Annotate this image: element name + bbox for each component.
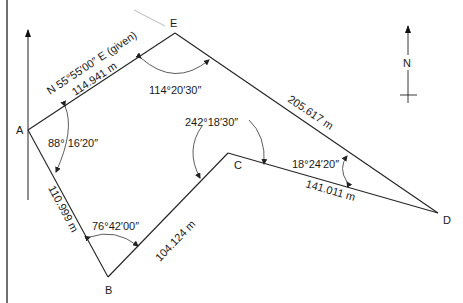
north-arrow-label: N (403, 57, 411, 69)
angle-label-B: 76°42′00″ (92, 220, 139, 232)
point-label-C: C (234, 159, 242, 171)
angle-arc-B (90, 234, 138, 246)
length-label-DC: 141.011 m (304, 177, 356, 203)
edge-CB (108, 153, 228, 277)
north-arrow: N (400, 26, 417, 103)
angle-label-E: 114°20′30″ (149, 84, 201, 96)
point-label-B: B (105, 284, 112, 296)
edge-AE (28, 33, 175, 130)
angle-arc-E (141, 58, 209, 74)
point-label-D: D (443, 214, 451, 226)
angle-label-C: 242°18′30″ (185, 116, 238, 128)
point-label-E: E (170, 17, 177, 29)
angle-label-D: 18°24′20″ (292, 158, 339, 170)
point-label-A: A (16, 124, 24, 136)
length-label-BA: 110.999 m (46, 183, 81, 234)
angle-arc-C-left (193, 126, 202, 178)
traverse-diagram: A E C D B N 55°55′00″ E (given) 114.941 … (0, 0, 463, 303)
reference-line (134, 10, 165, 26)
angle-arc-C-right (249, 120, 264, 164)
angle-label-A: 88° 16′20″ (48, 137, 98, 149)
angle-arc-D (343, 156, 348, 182)
